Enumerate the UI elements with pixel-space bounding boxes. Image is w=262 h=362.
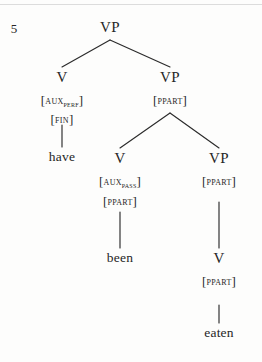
feature-label-fin: FIN: [55, 113, 69, 125]
syntax-tree-figure: 5 VP V [AUXPERF] [FIN] have VP [PPART] V…: [0, 0, 262, 362]
feature-label-ppart: PPART: [157, 94, 182, 106]
branch-midvp-to-right-vp: [170, 113, 219, 148]
feature-mid-ppart: [PPART]: [103, 195, 137, 208]
feature-left-fin: [FIN]: [51, 113, 74, 126]
node-mid-v: V: [114, 151, 125, 166]
terminal-eaten: eaten: [204, 326, 233, 340]
node-root-vp: VP: [100, 20, 120, 35]
feature-right-v-ppart: [PPART]: [202, 275, 236, 288]
bracket-close: ]: [232, 274, 237, 289]
example-number: 5: [11, 22, 18, 35]
node-mid-vp: VP: [160, 70, 180, 85]
feature-left-aux-perf: [AUXPERF]: [41, 94, 83, 108]
branch-midvp-to-mid-v: [120, 113, 170, 148]
node-left-v: V: [56, 70, 67, 85]
feature-label-ppart: PPART: [107, 195, 132, 207]
terminal-have: have: [49, 150, 75, 164]
feature-right-vp-ppart: [PPART]: [202, 175, 236, 188]
feature-label-aux: AUX: [104, 175, 122, 187]
bracket-close: ]: [136, 174, 141, 189]
feature-mid-aux-pass: [AUXPASS]: [99, 175, 141, 189]
branch-root-to-mid-vp: [110, 40, 170, 67]
node-right-vp: VP: [209, 151, 229, 166]
feature-label-ppart: PPART: [206, 175, 231, 187]
feature-subscript-perf: PERF: [64, 99, 79, 109]
feature-label-ppart: PPART: [206, 275, 231, 287]
terminal-been: been: [107, 251, 133, 265]
node-right-v: V: [213, 251, 224, 266]
bracket-close: ]: [133, 194, 138, 209]
bracket-close: ]: [69, 112, 74, 127]
bracket-close: ]: [79, 93, 84, 108]
bracket-close: ]: [183, 93, 188, 108]
feature-subscript-pass: PASS: [122, 180, 137, 190]
feature-mid-vp-ppart: [PPART]: [153, 94, 187, 107]
feature-label-aux: AUX: [45, 94, 63, 106]
branch-root-to-left-v: [62, 40, 110, 67]
bracket-close: ]: [232, 174, 237, 189]
